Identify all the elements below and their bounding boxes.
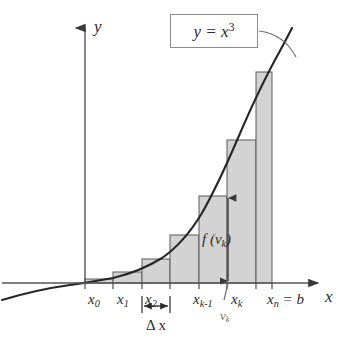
riemann-sum-figure: y = x3 y x x0 x1 x2 xk-1 xk xn = b vk Δ … bbox=[0, 0, 347, 345]
tick-label-x0: x0 bbox=[88, 292, 100, 307]
riemann-bar bbox=[227, 140, 256, 283]
riemann-bar bbox=[170, 235, 199, 283]
riemann-rectangles bbox=[85, 72, 272, 283]
vk-tick bbox=[224, 283, 228, 300]
x-axis-label: x bbox=[325, 288, 333, 305]
sample-point-label-vk: vk bbox=[220, 309, 230, 322]
x-axis-ticks bbox=[85, 283, 272, 289]
riemann-bar bbox=[256, 72, 272, 283]
tick-label-xn-equals-b: xn = b bbox=[267, 292, 304, 307]
fvk-label: f (vk) bbox=[202, 232, 231, 247]
y-axis-label: y bbox=[94, 18, 102, 35]
tick-label-xk: xk bbox=[231, 292, 242, 307]
leader-line bbox=[259, 31, 296, 57]
equation-callout-box: y = x3 bbox=[170, 14, 258, 48]
delta-x-label: Δ x bbox=[146, 318, 166, 333]
tick-label-xk-minus-1: xk-1 bbox=[193, 292, 213, 307]
tick-label-x1: x1 bbox=[117, 292, 129, 307]
equation-text: y = x3 bbox=[194, 23, 235, 40]
tick-label-x2: x2 bbox=[145, 292, 157, 307]
